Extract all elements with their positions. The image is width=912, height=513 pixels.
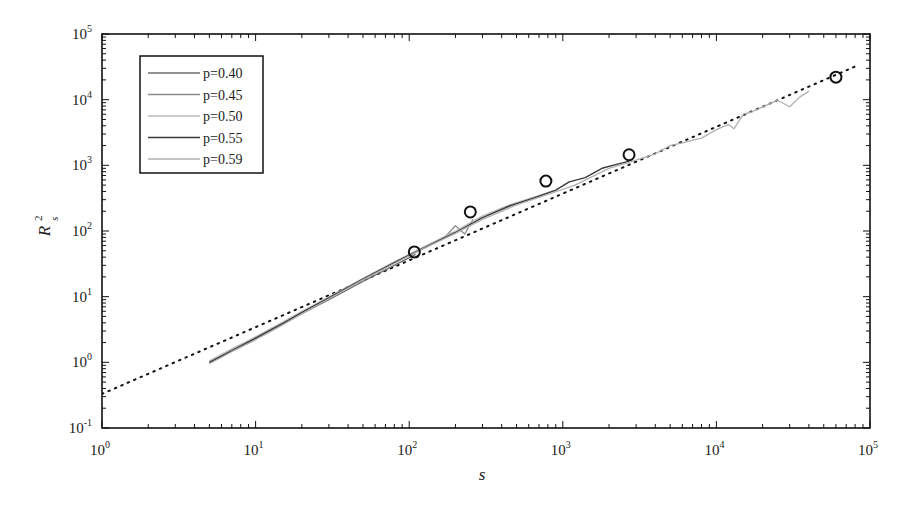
- x-tick-label: 103: [551, 439, 571, 458]
- circle-markers: [409, 72, 842, 258]
- y-tick-label: 101: [72, 286, 92, 305]
- x-tick-label: 101: [244, 439, 264, 458]
- circle-marker: [465, 206, 476, 217]
- loglog-chart: 10010110210310410510-1100101102103104105…: [0, 0, 912, 513]
- circle-marker: [830, 72, 841, 83]
- y-tick-label: 102: [72, 220, 92, 239]
- circle-marker: [540, 176, 551, 187]
- legend: p=0.40p=0.45p=0.50p=0.55p=0.59: [140, 56, 263, 173]
- series-line-p=0.55: [209, 161, 629, 362]
- svg-text:R: R: [35, 225, 54, 237]
- y-tick-label: 10-1: [69, 417, 92, 436]
- svg-text:s: s: [48, 217, 60, 221]
- x-tick-label: 104: [704, 439, 724, 458]
- series-line-p=0.59: [209, 91, 809, 364]
- legend-label: p=0.40: [203, 66, 242, 81]
- y-tick-label: 104: [72, 89, 92, 108]
- y-axis-label: R s 2: [32, 216, 60, 238]
- data-series: [209, 91, 809, 364]
- circle-marker: [624, 149, 635, 160]
- legend-label: p=0.50: [203, 109, 242, 124]
- x-tick-label: 105: [858, 439, 878, 458]
- x-tick-label: 100: [90, 439, 110, 458]
- x-tick-label: 102: [397, 439, 417, 458]
- legend-label: p=0.45: [203, 88, 242, 103]
- x-axis-label: s: [479, 465, 486, 484]
- y-tick-label: 103: [72, 154, 92, 173]
- legend-label: p=0.59: [203, 152, 242, 167]
- legend-label: p=0.55: [203, 131, 242, 146]
- y-tick-label: 105: [72, 23, 92, 42]
- y-tick-label: 100: [72, 351, 92, 370]
- svg-text:2: 2: [32, 216, 44, 222]
